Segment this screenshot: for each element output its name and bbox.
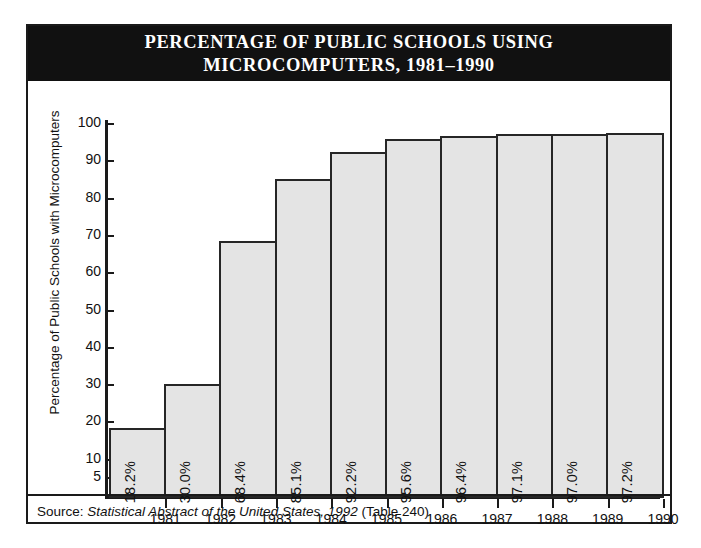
y-axis-tick: 50 — [105, 310, 114, 312]
y-axis-tick: 70 — [105, 235, 114, 237]
bar: 92.2% — [330, 152, 388, 498]
y-axis-tick-label: 70 — [85, 226, 101, 242]
bar: 96.4% — [440, 136, 498, 498]
y-axis-tick: 30 — [105, 384, 114, 386]
bar-value-label: 30.0% — [177, 461, 193, 504]
y-axis-tick-label: 5 — [93, 468, 101, 484]
x-axis-tick — [497, 499, 499, 508]
chart-figure: PERCENTAGE OF PUBLIC SCHOOLS USING MICRO… — [26, 24, 672, 524]
y-axis-tick-label: 50 — [85, 301, 101, 317]
y-axis-tick-label: 80 — [85, 189, 101, 205]
x-axis-tick-label: 1990 — [633, 511, 693, 527]
source-prefix: Source: — [37, 504, 84, 519]
x-axis-tick — [608, 499, 610, 508]
y-axis-tick: 90 — [105, 160, 114, 162]
bar-value-label: 97.1% — [509, 461, 525, 504]
source-citation-title: Statistical Abstract of the United State… — [87, 504, 357, 519]
y-axis-tick: 100 — [105, 123, 114, 125]
plot-area: Percentage of Public Schools with Microc… — [28, 81, 670, 494]
y-axis-title: Percentage of Public Schools with Microc… — [47, 83, 62, 443]
x-axis-tick — [552, 499, 554, 508]
y-axis-tick-label: 100 — [78, 114, 101, 130]
bar: 95.6% — [385, 139, 443, 498]
y-axis-tick-label: 10 — [85, 450, 101, 466]
source-table-ref: (Table 240) — [361, 504, 429, 519]
bar-value-label: 97.2% — [619, 461, 635, 504]
bar-value-label: 97.0% — [564, 461, 580, 504]
y-axis-tick: 80 — [105, 198, 114, 200]
bar-value-label: 92.2% — [343, 461, 359, 504]
y-axis-tick: 60 — [105, 272, 114, 274]
y-axis-tick-label: 20 — [85, 412, 101, 428]
y-axis-tick-label: 30 — [85, 375, 101, 391]
y-axis-tick-label: 60 — [85, 263, 101, 279]
chart-title-banner: PERCENTAGE OF PUBLIC SCHOOLS USING MICRO… — [28, 26, 670, 81]
bar: 30.0% — [164, 384, 222, 498]
y-axis-tick: 20 — [105, 421, 114, 423]
x-axis-tick — [663, 499, 665, 508]
y-axis-tick-label: 90 — [85, 151, 101, 167]
bar: 97.0% — [551, 134, 609, 498]
bar: 18.2% — [109, 428, 167, 498]
bar: 97.1% — [496, 134, 554, 498]
bar: 68.4% — [219, 241, 277, 498]
bar-value-label: 95.6% — [398, 461, 414, 504]
chart-title-line-2: MICROCOMPUTERS, 1981–1990 — [203, 54, 494, 77]
bar-value-label: 18.2% — [122, 461, 138, 504]
source-note: Source: Statistical Abstract of the Unit… — [37, 504, 429, 519]
chart-title-line-1: PERCENTAGE OF PUBLIC SCHOOLS USING — [145, 31, 554, 54]
x-axis-tick-label: 1988 — [522, 511, 582, 527]
bar-value-label: 96.4% — [453, 461, 469, 504]
bar-value-label: 68.4% — [232, 461, 248, 504]
x-axis-tick-label: 1987 — [467, 511, 527, 527]
bar: 97.2% — [606, 133, 664, 498]
y-axis-tick: 40 — [105, 347, 114, 349]
bar: 85.1% — [275, 179, 333, 498]
y-axis-tick-label: 40 — [85, 338, 101, 354]
source-divider — [28, 494, 670, 496]
x-axis-tick-label: 1989 — [578, 511, 638, 527]
x-axis-tick — [442, 499, 444, 508]
bar-value-label: 85.1% — [288, 461, 304, 504]
